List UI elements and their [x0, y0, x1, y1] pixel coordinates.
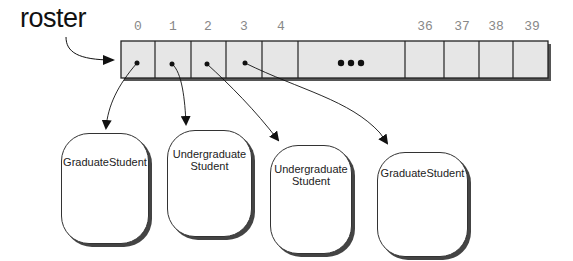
object-type-label: Undergraduate — [271, 163, 351, 175]
object-type-label: Undergraduate — [168, 148, 251, 160]
index-label-4: 4 — [277, 19, 285, 34]
index-label-37: 37 — [454, 19, 470, 34]
index-label-3: 3 — [240, 19, 248, 34]
object-undergraduate-student-1: Undergraduate Student — [167, 130, 252, 237]
object-type-label-line2: Student — [168, 160, 251, 172]
object-type-label: GraduateStudent — [378, 167, 467, 179]
ellipsis-icon — [338, 60, 364, 66]
index-label-0: 0 — [134, 19, 142, 34]
object-type-label-line2: Student — [271, 175, 351, 187]
index-label-39: 39 — [524, 19, 540, 34]
index-label-38: 38 — [488, 19, 504, 34]
object-undergraduate-student-2: Undergraduate Student — [270, 145, 352, 254]
variable-name-label: roster — [20, 3, 86, 34]
roster-array — [121, 41, 548, 78]
object-graduate-student-2: GraduateStudent — [377, 152, 468, 257]
index-label-36: 36 — [417, 19, 433, 34]
index-label-1: 1 — [169, 19, 177, 34]
index-label-2: 2 — [204, 19, 212, 34]
roster-pointer-arrow — [66, 37, 113, 60]
object-type-label: GraduateStudent — [62, 156, 148, 168]
object-graduate-student-1: GraduateStudent — [61, 133, 149, 244]
